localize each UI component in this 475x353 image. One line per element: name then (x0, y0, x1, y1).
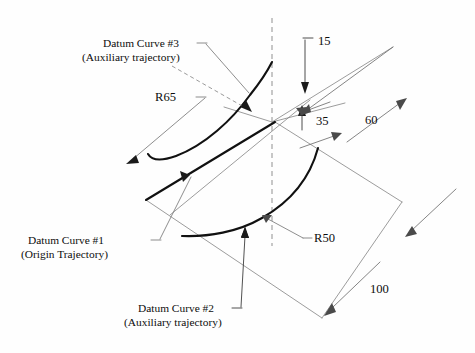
origin-trajectory-path (146, 122, 275, 200)
dim-100-label: 100 (370, 282, 389, 296)
technical-drawing-canvas: 15 35 60 100 (0, 0, 475, 353)
dim-60-label: 60 (365, 113, 378, 127)
datum2-leader-vertical (241, 236, 245, 307)
datum-curve-3-auxiliary-trajectory (148, 62, 272, 160)
dimension-100: 100 (324, 189, 456, 316)
dim-100-lower-arrowhead (324, 303, 336, 316)
dim-100-upper-line (410, 189, 456, 232)
datum1-label-line2: (Origin Trajectory) (21, 248, 108, 261)
dim-35-label: 35 (316, 114, 329, 128)
datum3-label-line1: Datum Curve #3 (103, 37, 179, 49)
datum3-dashed-leader (172, 66, 244, 107)
dim-35-lower-arrowhead (331, 132, 342, 141)
r65-arrowhead (126, 155, 139, 164)
drawing-svg: 15 35 60 100 (0, 0, 475, 353)
datum3-label-line2: (Auxiliary trajectory) (82, 51, 180, 64)
aux3-trajectory-path (148, 62, 272, 160)
origin-trajectory-direction-arrow (180, 171, 190, 182)
datum2-label-line1: Datum Curve #2 (138, 302, 214, 314)
datum2-label-line2: (Auxiliary trajectory) (124, 316, 222, 329)
datum-curve-2-auxiliary-trajectory (182, 148, 318, 238)
upper-reference-lines (170, 47, 393, 215)
r50-leader (268, 219, 303, 238)
dim-35-lower-extension (300, 136, 334, 148)
r65-leader-diagonal (133, 98, 205, 159)
datum3-leader-diagonal (206, 44, 249, 93)
datum1-label-line1: Datum Curve #1 (28, 234, 104, 246)
datum-curve-1-callout: Datum Curve #1 (Origin Trajectory) (21, 177, 191, 261)
dim-15-label: 15 (318, 34, 331, 48)
datum1-leader-diagonal (160, 177, 191, 239)
dim-60-right-arrowhead (396, 98, 407, 110)
dim-60-upper-line (307, 47, 393, 110)
datum-curve-2-callout: Datum Curve #2 (Auxiliary trajectory) (124, 226, 249, 329)
radius-r50-callout: R50 (262, 215, 335, 245)
r50-arrowhead (262, 215, 272, 223)
dim-15-arrowhead (301, 82, 309, 94)
dimension-35: 35 (296, 102, 342, 148)
plane-edge-lower-left (146, 200, 322, 318)
dimension-15: 15 (301, 34, 331, 94)
r50-label: R50 (314, 231, 335, 245)
projection-line-upper-right (272, 47, 393, 122)
datum-curve-1-origin-trajectory (146, 122, 275, 200)
datum3-arrowhead (240, 100, 252, 112)
aux2-trajectory-path (182, 148, 318, 236)
radius-r65-callout: R65 (126, 90, 206, 164)
r65-label: R65 (155, 90, 176, 104)
plane-edge-lower-right (322, 202, 402, 318)
